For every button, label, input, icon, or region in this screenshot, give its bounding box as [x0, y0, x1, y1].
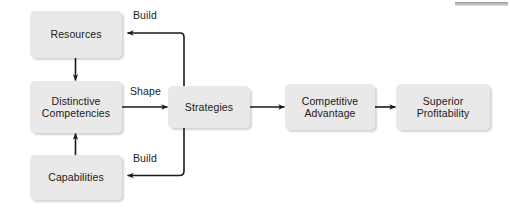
edge-label-shape: Shape — [130, 85, 161, 97]
node-distinctive-competencies-label: Distinctive Competencies — [42, 95, 110, 120]
edge-label-build-top: Build — [133, 9, 157, 21]
node-competitive-advantage-label: Competitive Advantage — [302, 95, 359, 120]
node-resources[interactable]: Resources — [30, 11, 122, 58]
node-superior-profitability-label: Superior Profitability — [417, 95, 470, 120]
scan-artifact-bar — [455, 2, 508, 6]
node-capabilities[interactable]: Capabilities — [30, 155, 122, 200]
node-resources-label: Resources — [50, 28, 101, 41]
node-distinctive-competencies[interactable]: Distinctive Competencies — [30, 81, 122, 133]
node-strategies-label: Strategies — [185, 101, 233, 114]
node-capabilities-label: Capabilities — [48, 171, 103, 184]
edge-strategies-to-resources — [128, 33, 185, 86]
node-superior-profitability[interactable]: Superior Profitability — [396, 84, 490, 130]
flow-diagram: Resources Distinctive Competencies Capab… — [0, 0, 510, 211]
node-strategies[interactable]: Strategies — [168, 86, 250, 128]
node-competitive-advantage[interactable]: Competitive Advantage — [285, 84, 375, 130]
edge-label-build-bottom: Build — [133, 152, 157, 164]
